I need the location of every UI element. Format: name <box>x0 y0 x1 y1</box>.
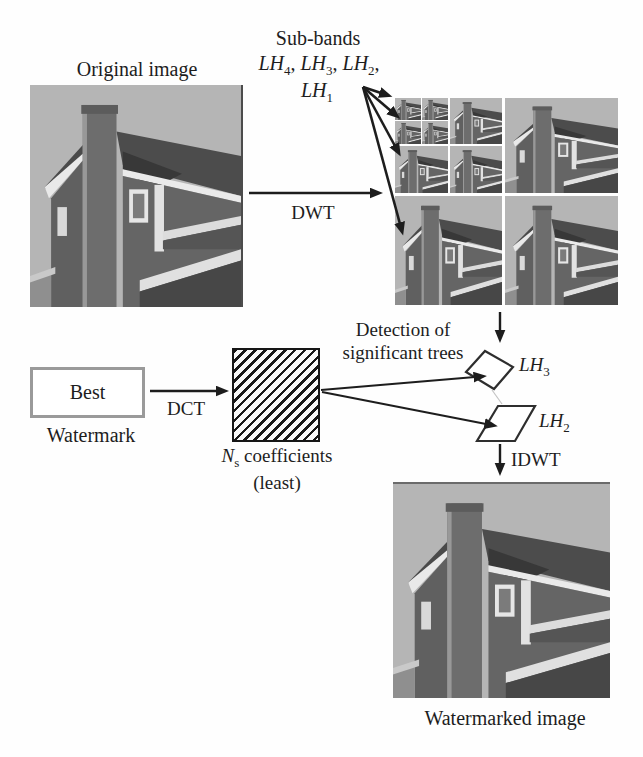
subscript: 2 <box>563 420 570 435</box>
lh3-label: LH3 <box>519 354 550 379</box>
text-part: , <box>375 52 380 74</box>
arrow-subband-lh4 <box>363 87 381 93</box>
subbands-title: Sub-bands <box>276 26 360 50</box>
text-part: LH <box>343 52 369 74</box>
watermark-label: Watermark <box>47 423 135 447</box>
text-part: , <box>333 52 343 74</box>
lh3-shape <box>466 351 513 389</box>
watermarked-image <box>393 482 610 698</box>
detection-line1: Detection of <box>356 319 450 340</box>
lh3-lh2-connector-line <box>492 390 502 404</box>
dwt-level2-cell <box>450 146 502 193</box>
arrow-coeff-to-lh3 <box>321 377 475 390</box>
lh2-label: LH2 <box>539 410 570 435</box>
subband-list-line1: LH4, LH3, LH2, <box>258 51 379 79</box>
text-part: coefficients <box>239 445 332 466</box>
dwt-level3-cell <box>395 98 421 120</box>
dwt-level2-cell <box>450 98 502 144</box>
text-part: LH <box>301 79 327 101</box>
subscript: 3 <box>543 364 550 379</box>
dwt-quadrant-cell <box>395 196 502 305</box>
dwt-level3-cell <box>422 98 448 120</box>
house-photo <box>30 85 241 307</box>
house-photo <box>393 484 610 698</box>
dwt-subband-image <box>395 98 618 305</box>
ns-coefficients-box <box>232 348 320 442</box>
watermarked-image-label: Watermarked image <box>424 706 585 730</box>
best-watermark-box: Best <box>30 367 145 418</box>
text-part: LH <box>258 52 284 74</box>
dwt-level2-top-left <box>395 98 448 144</box>
least-label: (least) <box>253 472 300 495</box>
dct-label: DCT <box>167 398 205 421</box>
idwt-label: IDWT <box>511 449 561 472</box>
dwt-level3-cell <box>395 121 421 144</box>
dwt-level3-cell <box>422 121 448 144</box>
dwt-quadrant-top-left <box>395 98 502 193</box>
diagram-canvas: Best Original image S <box>0 0 643 757</box>
ns-coefficients-label: Ns coefficients <box>222 445 333 470</box>
original-image-label: Original image <box>77 57 198 81</box>
text-part: , <box>290 52 300 74</box>
original-image <box>30 85 243 307</box>
dwt-quadrant-cell <box>505 196 618 305</box>
text-part: N <box>222 445 235 466</box>
dwt-label: DWT <box>291 202 334 225</box>
dwt-quadrant-cell <box>505 98 618 193</box>
subband-list-line2: LH1 <box>301 78 333 106</box>
arrow-coeff-to-lh2 <box>322 392 486 424</box>
detection-line2: significant trees <box>343 342 464 363</box>
detection-label: Detection ofsignificant trees <box>343 319 464 365</box>
text-part: LH <box>300 52 326 74</box>
dwt-level2-cell <box>395 146 448 193</box>
arrow-subband-lh3 <box>363 87 391 111</box>
text-part: LH <box>539 410 563 431</box>
text-part: LH <box>519 354 543 375</box>
subscript: 1 <box>327 90 334 105</box>
best-box-label: Best <box>70 381 106 404</box>
lh2-shape <box>477 406 535 441</box>
arrow-subband-lh2 <box>363 87 395 146</box>
